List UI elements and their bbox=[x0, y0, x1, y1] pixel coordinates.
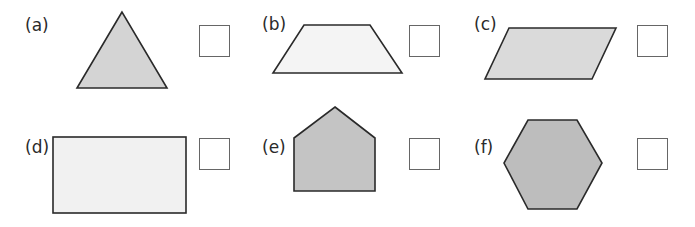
shape-a-triangle bbox=[77, 12, 167, 88]
label-e: (e) bbox=[262, 139, 286, 156]
answer-box-e[interactable] bbox=[409, 138, 440, 170]
label-a: (a) bbox=[25, 17, 49, 34]
shape-b-trapezium bbox=[273, 25, 402, 73]
label-d: (d) bbox=[25, 139, 49, 156]
shape-c-parallelogram bbox=[485, 28, 616, 79]
answer-box-f[interactable] bbox=[637, 138, 668, 170]
shape-f-hexagon bbox=[504, 120, 602, 209]
answer-box-c[interactable] bbox=[637, 25, 668, 57]
label-b: (b) bbox=[262, 16, 286, 33]
label-f: (f) bbox=[474, 139, 493, 156]
answer-box-d[interactable] bbox=[199, 138, 230, 170]
label-c: (c) bbox=[474, 16, 497, 33]
shape-d-rectangle bbox=[53, 137, 186, 213]
answer-box-b[interactable] bbox=[409, 25, 440, 57]
answer-box-a[interactable] bbox=[199, 25, 230, 57]
shape-e-pentagon bbox=[294, 107, 375, 191]
shapes-canvas bbox=[0, 0, 695, 227]
